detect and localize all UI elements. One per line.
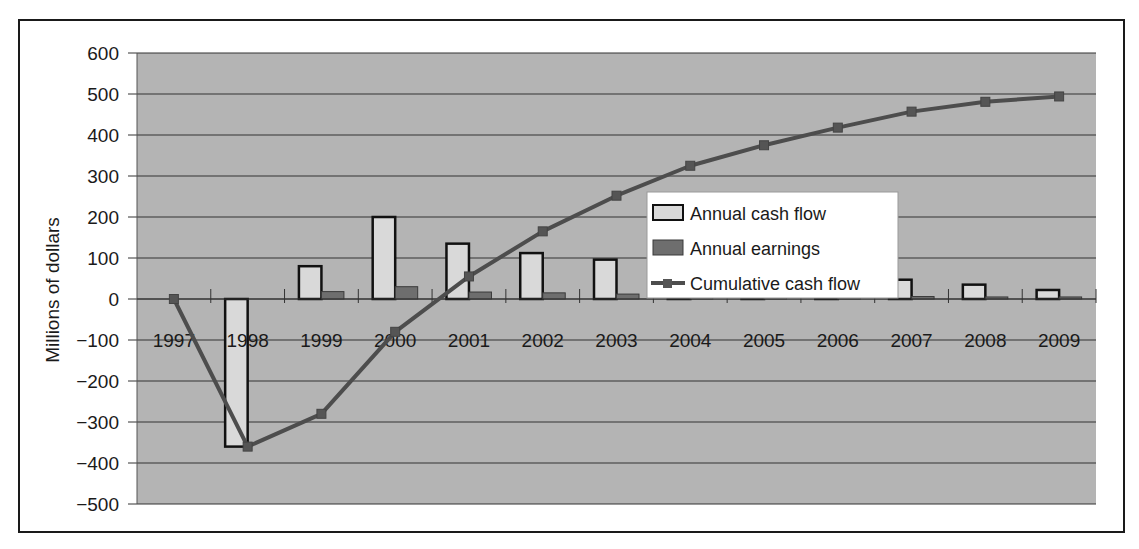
bar-annual-earnings: [321, 292, 344, 299]
x-category-label: 2002: [522, 330, 564, 351]
chart: 6005004003002001000−100−200−300−400−500 …: [0, 0, 1139, 549]
line-marker: [391, 327, 400, 336]
legend-label-cumulative: Cumulative cash flow: [690, 274, 861, 294]
y-tick-label: 500: [87, 84, 119, 105]
line-marker: [686, 161, 695, 170]
y-tick-label: −100: [76, 330, 119, 351]
x-category-label: 2003: [595, 330, 637, 351]
y-tick-label: 300: [87, 166, 119, 187]
legend-label-cash-flow: Annual cash flow: [690, 204, 827, 224]
bar-annual-earnings: [617, 294, 640, 299]
x-category-label: 1997: [153, 330, 195, 351]
bar-annual-cash-flow: [520, 253, 543, 299]
line-marker: [317, 409, 326, 418]
x-category-label: 2001: [448, 330, 490, 351]
x-category-label: 2007: [890, 330, 932, 351]
x-category-label: 2008: [964, 330, 1006, 351]
legend: Annual cash flowAnnual earningsCumulativ…: [647, 192, 898, 298]
x-category-label: 2005: [743, 330, 785, 351]
x-category-label: 2004: [669, 330, 712, 351]
bar-annual-cash-flow: [1037, 290, 1060, 299]
line-marker: [907, 107, 916, 116]
line-marker: [243, 442, 252, 451]
line-marker: [464, 272, 473, 281]
line-marker: [612, 191, 621, 200]
line-marker: [760, 141, 769, 150]
x-category-label: 1998: [227, 330, 269, 351]
line-marker: [981, 97, 990, 106]
line-marker: [169, 295, 178, 304]
legend-swatch-earnings: [653, 240, 683, 255]
bar-annual-cash-flow: [963, 285, 986, 299]
y-tick-label: 100: [87, 248, 119, 269]
legend-swatch-cash-flow: [653, 205, 683, 220]
y-tick-label: −200: [76, 371, 119, 392]
x-category-label: 2006: [817, 330, 859, 351]
x-category-label: 1999: [300, 330, 342, 351]
y-tick-label: −300: [76, 412, 119, 433]
legend-label-earnings: Annual earnings: [690, 239, 820, 259]
bar-annual-earnings: [469, 292, 492, 299]
bar-annual-cash-flow: [594, 260, 617, 299]
y-tick-label: 200: [87, 207, 119, 228]
y-tick-label: −400: [76, 453, 119, 474]
y-tick-label: 400: [87, 125, 119, 146]
line-marker: [538, 227, 547, 236]
bar-annual-earnings: [543, 293, 566, 299]
y-axis-title: Millions of dollars: [42, 217, 63, 363]
y-tick-label: 0: [108, 289, 119, 310]
y-axis: 6005004003002001000−100−200−300−400−500: [76, 43, 137, 515]
line-marker: [1055, 92, 1064, 101]
line-marker: [833, 123, 842, 132]
bar-annual-cash-flow: [373, 217, 396, 299]
y-tick-label: 600: [87, 43, 119, 64]
bar-annual-cash-flow: [299, 266, 322, 299]
bar-annual-earnings: [395, 287, 418, 299]
legend-swatch-marker: [663, 279, 672, 288]
y-tick-label: −500: [76, 494, 119, 515]
x-category-label: 2009: [1038, 330, 1080, 351]
